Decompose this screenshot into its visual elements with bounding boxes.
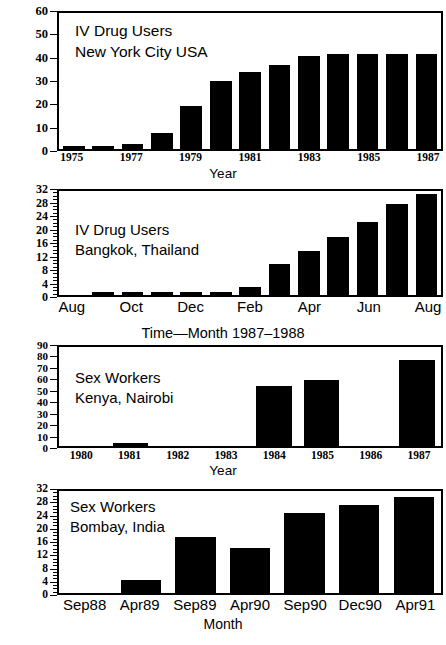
x-tick-label: Sep90	[278, 597, 333, 612]
y-tick-minor	[53, 578, 57, 579]
x-tick-label: Sep88	[57, 597, 112, 612]
y-tick-label: 20	[37, 523, 49, 535]
y-tick-minor	[53, 522, 57, 523]
y-tick	[50, 502, 57, 503]
y-tick-minor	[53, 559, 57, 560]
y-tick	[50, 516, 57, 517]
y-tick-minor	[53, 535, 57, 536]
y-tick	[50, 529, 57, 530]
y-tick	[50, 582, 57, 583]
x-tick-label: Apr89	[112, 597, 167, 612]
bar	[394, 497, 434, 593]
y-tick-minor	[53, 592, 57, 593]
bar-slot	[386, 491, 441, 593]
y-tick-minor	[53, 588, 57, 589]
x-tick-label: Sep89	[167, 597, 222, 612]
y-tick-minor	[53, 509, 57, 510]
y-tick-minor	[53, 565, 57, 566]
y-tick-label: 24	[37, 510, 49, 522]
y-tick	[50, 555, 57, 556]
bar	[175, 537, 215, 593]
y-tick-minor	[53, 512, 57, 513]
y-axis-4: 048121620242832	[48, 489, 57, 595]
y-tick-minor	[53, 525, 57, 526]
y-tick-label: 12	[37, 550, 49, 562]
y-tick-label: 4	[42, 576, 48, 588]
x-axis-title-2: Time—Month 1987–1988	[0, 326, 446, 341]
y-tick-label: 28	[37, 497, 49, 509]
y-tick-minor	[53, 519, 57, 520]
x-tick-label: Dec90	[333, 597, 388, 612]
y-tick-minor	[53, 549, 57, 550]
y-tick-label: 16	[37, 536, 49, 548]
y-tick-minor	[53, 545, 57, 546]
panel-annotation-4: Sex WorkersBombay, India	[70, 497, 165, 538]
y-tick-minor	[53, 532, 57, 533]
y-tick-minor	[53, 552, 57, 553]
x-axis-labels-4: Sep88Apr89Sep89Apr90Sep90Dec90Apr91	[57, 597, 443, 612]
y-tick-minor	[53, 506, 57, 507]
bar	[121, 580, 161, 593]
bar-slot	[168, 491, 223, 593]
annotation-population: Sex Workers	[70, 497, 165, 517]
y-tick-minor	[53, 562, 57, 563]
bar-slot	[277, 491, 332, 593]
bar	[284, 513, 324, 593]
chart-figure: 0102030405060197519771979198119831985198…	[0, 0, 446, 645]
bar	[339, 505, 379, 593]
y-tick	[50, 542, 57, 543]
y-tick	[50, 595, 57, 596]
bar-slot	[223, 491, 278, 593]
x-tick-label: Apr90	[222, 597, 277, 612]
y-tick-minor	[53, 572, 57, 573]
x-axis-title-4: Month	[0, 617, 446, 631]
y-tick-label: 32	[37, 483, 49, 495]
y-tick-minor	[53, 585, 57, 586]
y-tick-minor	[53, 499, 57, 500]
y-tick-minor	[53, 496, 57, 497]
y-tick-minor	[53, 492, 57, 493]
y-tick	[50, 489, 57, 490]
chart-panel-4: 048121620242832Sep88Apr89Sep89Apr90Sep90…	[0, 0, 446, 645]
y-tick-minor	[53, 575, 57, 576]
annotation-location: Bombay, India	[70, 517, 165, 537]
x-tick-label: Apr91	[388, 597, 443, 612]
y-tick-label: 8	[42, 563, 48, 575]
y-tick	[50, 569, 57, 570]
bar-slot	[332, 491, 387, 593]
y-tick-label: 0	[42, 589, 48, 601]
bar	[230, 548, 270, 593]
y-tick-minor	[53, 539, 57, 540]
